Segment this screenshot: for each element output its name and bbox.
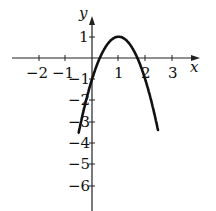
parabola-curve: [79, 37, 158, 133]
x-tick-label: 2: [141, 66, 151, 81]
parabola-graph: y x −2 −1 1 2 3 1 −1 −2 −3 −4 −5 −6: [0, 0, 216, 211]
x-axis-label: x: [190, 60, 198, 75]
y-tick-label: 1: [79, 30, 89, 45]
y-tick-label: −6: [68, 179, 90, 194]
x-tick-label: −2: [26, 66, 48, 81]
x-tick-label: 3: [168, 66, 178, 81]
y-tick-label: −4: [68, 136, 90, 151]
y-tick-label: −2: [68, 93, 90, 108]
y-tick-label: −1: [68, 72, 90, 87]
y-tick-label: −3: [68, 115, 90, 130]
y-axis-arrow-icon: [89, 16, 95, 25]
plot-canvas: [0, 0, 216, 211]
y-tick-label: −5: [68, 157, 90, 172]
y-axis-label: y: [79, 6, 87, 21]
x-tick-label: 1: [114, 66, 124, 81]
